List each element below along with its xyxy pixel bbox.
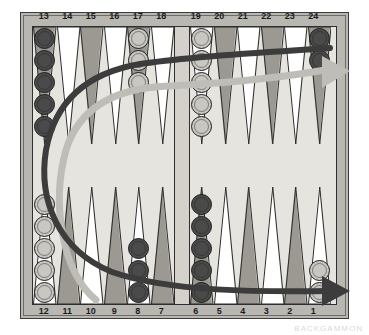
checker-inner-ring	[194, 285, 209, 300]
checker-inner-ring	[37, 197, 52, 212]
checker-inner-ring	[194, 263, 209, 278]
checker-inner-ring	[37, 219, 52, 234]
point-triangle-dark	[57, 186, 79, 304]
point-triangle-dark	[237, 186, 259, 304]
point-slot[interactable]	[80, 167, 104, 304]
checker-inner-ring	[37, 53, 52, 68]
checker-inner-ring	[37, 241, 52, 256]
point-triangle-light	[104, 27, 126, 145]
checker-inner-ring	[37, 75, 52, 90]
point-triangle-light	[80, 186, 102, 304]
point-slot[interactable]	[214, 27, 238, 164]
checker-inner-ring	[37, 285, 52, 300]
point-triangle-dark	[151, 186, 173, 304]
checker-light-point-1[interactable]	[309, 282, 330, 303]
checker-inner-ring	[131, 241, 146, 256]
backgammon-board-screenshot: backgammon movementof the checkersaround…	[0, 0, 369, 335]
point-triangle-dark	[284, 186, 306, 304]
point-slot[interactable]	[104, 27, 128, 164]
point-triangle-dark	[104, 186, 126, 304]
checker-inner-ring	[312, 263, 327, 278]
quadrant-top-right	[190, 27, 331, 164]
point-triangle-light	[261, 186, 283, 304]
point-slot[interactable]	[57, 27, 81, 164]
checker-inner-ring	[194, 119, 209, 134]
point-slot[interactable]	[284, 167, 308, 304]
checker-inner-ring	[131, 285, 146, 300]
point-slot[interactable]	[80, 27, 104, 164]
point-slot[interactable]	[237, 27, 261, 164]
checker-inner-ring	[131, 263, 146, 278]
checker-inner-ring	[194, 219, 209, 234]
point-triangle-light	[284, 27, 306, 145]
point-triangle-dark	[80, 27, 102, 145]
point-slot[interactable]	[237, 167, 261, 304]
point-slot[interactable]	[104, 167, 128, 304]
checker-inner-ring	[312, 53, 327, 68]
checker-inner-ring	[194, 31, 209, 46]
checker-inner-ring	[37, 97, 52, 112]
point-slot[interactable]	[214, 167, 238, 304]
quadrant-bottom-left	[33, 167, 174, 304]
checker-inner-ring	[131, 31, 146, 46]
checker-inner-ring	[312, 31, 327, 46]
checker-dark-point-24[interactable]	[309, 28, 330, 49]
checker-inner-ring	[194, 97, 209, 112]
checker-inner-ring	[312, 285, 327, 300]
point-triangle-light	[214, 186, 236, 304]
checker-inner-ring	[37, 31, 52, 46]
checker-inner-ring	[194, 197, 209, 212]
checker-inner-ring	[131, 53, 146, 68]
checker-inner-ring	[194, 53, 209, 68]
point-triangle-light	[57, 27, 79, 145]
point-triangle-light	[151, 27, 173, 145]
quadrant-top-left	[33, 27, 174, 164]
checker-inner-ring	[131, 75, 146, 90]
checker-inner-ring	[37, 263, 52, 278]
point-slot[interactable]	[57, 167, 81, 304]
checker-dark-point-24[interactable]	[309, 50, 330, 71]
quadrant-bottom-right	[190, 167, 331, 304]
point-slot[interactable]	[261, 27, 285, 164]
board-center-bar	[174, 27, 190, 304]
checker-inner-ring	[194, 241, 209, 256]
point-slot[interactable]	[284, 27, 308, 164]
page-corner-artifact: BACKGAMMON	[294, 324, 363, 333]
point-triangle-light	[237, 27, 259, 145]
checker-light-point-1[interactable]	[309, 260, 330, 281]
point-slot[interactable]	[151, 27, 175, 164]
point-triangle-dark	[214, 27, 236, 145]
checker-inner-ring	[194, 75, 209, 90]
point-triangle-dark	[261, 27, 283, 145]
point-slot[interactable]	[261, 167, 285, 304]
checker-inner-ring	[37, 119, 52, 134]
point-slot[interactable]	[151, 167, 175, 304]
